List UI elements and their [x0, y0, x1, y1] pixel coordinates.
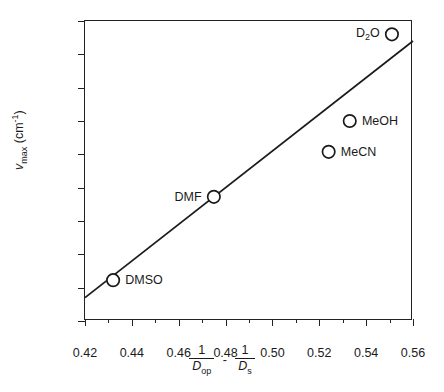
data-point-label: D2O — [356, 26, 380, 43]
data-point-label: DMF — [175, 190, 202, 204]
y-axis-tick — [78, 121, 85, 122]
x-axis-denominator-first-subscript: op — [201, 366, 211, 376]
y-axis-tick — [78, 154, 85, 155]
data-point-marker — [107, 274, 119, 286]
x-axis-tick-label: 0.48 — [213, 346, 237, 360]
data-point-marker — [208, 191, 220, 203]
y-axis-tick — [78, 21, 85, 22]
data-point-label: MeOH — [362, 114, 398, 128]
y-axis-unit-close: ) — [12, 110, 26, 114]
y-axis-unit-exponent: -1 — [10, 114, 20, 122]
x-axis-tick — [413, 319, 414, 326]
x-axis-fraction-first: 1 Dop — [189, 344, 214, 376]
x-axis-tick-label: 0.46 — [167, 346, 191, 360]
x-axis-denominator-first: Dop — [189, 359, 214, 376]
x-axis-tick-label: 0.42 — [73, 346, 97, 360]
y-axis-subscript: max — [19, 147, 29, 164]
x-axis-numerator-first: 1 — [189, 344, 214, 359]
x-axis-tick-label: 0.52 — [307, 346, 331, 360]
y-axis-tick — [78, 88, 85, 89]
x-axis-denominator-second-subscript: s — [247, 366, 252, 376]
y-axis-title: vmax (cm-1) — [10, 110, 29, 170]
y-axis-tick — [78, 321, 85, 322]
scatter-plot-figure: vmax (cm-1) 1 Dop - 1 Ds 780080008200840… — [0, 0, 444, 392]
plot-area: 7800800082008400860088009000920094009600… — [84, 20, 412, 320]
x-axis-denominator-first-symbol: D — [192, 359, 201, 373]
y-axis-tick — [78, 54, 85, 55]
y-axis-tick — [78, 288, 85, 289]
y-axis-tick — [78, 188, 85, 189]
x-axis-tick-label: 0.44 — [120, 346, 144, 360]
x-axis-denominator-second-symbol: D — [238, 359, 247, 373]
data-point-marker — [344, 115, 356, 127]
data-point-label: DMSO — [125, 273, 163, 287]
y-axis-tick — [78, 254, 85, 255]
data-point-marker — [386, 28, 398, 40]
x-axis-numerator-second: 1 — [235, 344, 255, 359]
x-axis-tick-label: 0.54 — [354, 346, 378, 360]
data-point-marker — [322, 146, 334, 158]
data-point-label: MeCN — [341, 145, 376, 159]
y-axis-tick — [78, 221, 85, 222]
x-axis-fraction-second: 1 Ds — [235, 344, 255, 376]
y-axis-unit-open: (cm — [12, 122, 26, 146]
y-axis-symbol: v — [12, 164, 26, 170]
x-axis-tick-label: 0.50 — [260, 346, 284, 360]
x-axis-denominator-second: Ds — [235, 359, 255, 376]
x-axis-tick-label: 0.56 — [401, 346, 425, 360]
